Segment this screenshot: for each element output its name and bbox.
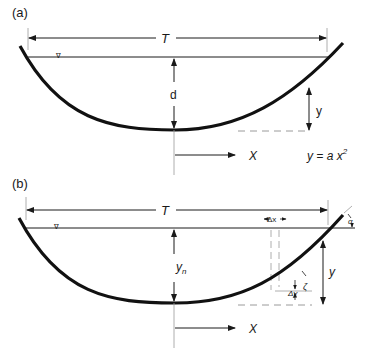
panel-a-label: (a) bbox=[12, 5, 28, 20]
panel-b-label: (b) bbox=[12, 176, 28, 191]
height-label-b: y bbox=[328, 265, 336, 279]
x-axis-label-b: X bbox=[248, 322, 258, 336]
angle-alpha-label: α bbox=[348, 217, 353, 226]
dy-label: Δy bbox=[287, 289, 298, 298]
x-axis-label-a: X bbox=[248, 149, 258, 163]
water-surface-symbol-b: ∇ bbox=[53, 223, 59, 230]
panel-a: (a) T ∇ d y X y = a x2 bbox=[12, 5, 348, 175]
depth-label-b: yn bbox=[175, 260, 187, 276]
parabolic-channel-figure: (a) T ∇ d y X y = a x2 bbox=[0, 0, 369, 358]
angle-zeta-label: ζ bbox=[303, 282, 308, 292]
top-width-label-b: T bbox=[161, 203, 170, 218]
top-width-dimension-b: T bbox=[26, 197, 328, 225]
dx-label: Δx bbox=[267, 215, 276, 224]
water-surface-symbol-a: ∇ bbox=[55, 52, 61, 59]
height-label-a: y bbox=[316, 104, 322, 118]
channel-bed-a bbox=[20, 43, 343, 130]
equation-a: y = a x2 bbox=[306, 147, 348, 163]
depth-label-a: d bbox=[170, 88, 177, 102]
panel-b: (b) T ∇ Δx yn Δy ζ bbox=[12, 176, 355, 348]
top-width-dimension-a: T bbox=[28, 28, 327, 52]
top-width-label-a: T bbox=[161, 31, 170, 46]
